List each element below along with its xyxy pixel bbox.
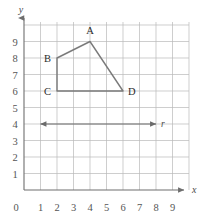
- y-tick-label-9: 9: [12, 37, 17, 48]
- x-tick-label-5: 5: [104, 202, 109, 213]
- y-tick-label-8: 8: [12, 53, 17, 64]
- y-axis-label: y: [18, 4, 24, 15]
- y-tick-label-6: 6: [12, 86, 17, 97]
- vertex-label-a: A: [86, 25, 94, 36]
- coordinate-plane: y x 0 1 2 3 4 5 6 7 8 9 1 2 3 4 5 6 7 8 …: [0, 0, 204, 223]
- vertex-label-b: B: [44, 53, 51, 64]
- y-tick-labels: 1 2 3 4 5 6 7 8 9: [12, 37, 18, 180]
- line-r-label: r: [161, 119, 165, 129]
- x-tick-label-9: 9: [170, 202, 175, 213]
- vertex-label-d: D: [128, 86, 136, 97]
- x-tick-labels: 0 1 2 3 4 5 6 7 8 9: [13, 202, 175, 213]
- x-tick-label-1: 1: [38, 202, 43, 213]
- x-tick-label-6: 6: [120, 202, 125, 213]
- x-tick-label-7: 7: [137, 202, 142, 213]
- y-tick-label-2: 2: [12, 152, 17, 163]
- y-tick-label-7: 7: [12, 70, 17, 81]
- axes: [24, 18, 184, 190]
- x-axis-label: x: [191, 184, 197, 195]
- x-tick-label-2: 2: [54, 202, 59, 213]
- y-tick-label-4: 4: [12, 119, 18, 130]
- x-tick-label-4: 4: [87, 202, 93, 213]
- y-tick-label-1: 1: [12, 169, 17, 180]
- x-tick-label-0: 0: [13, 202, 18, 213]
- coordinate-grid-figure: y x 0 1 2 3 4 5 6 7 8 9 1 2 3 4 5 6 7 8 …: [0, 0, 204, 223]
- vertex-label-c: C: [44, 86, 51, 97]
- y-tick-label-3: 3: [12, 136, 17, 147]
- grid-lines: [24, 22, 189, 190]
- x-tick-label-8: 8: [153, 202, 158, 213]
- x-tick-label-3: 3: [71, 202, 76, 213]
- y-tick-label-5: 5: [12, 103, 17, 114]
